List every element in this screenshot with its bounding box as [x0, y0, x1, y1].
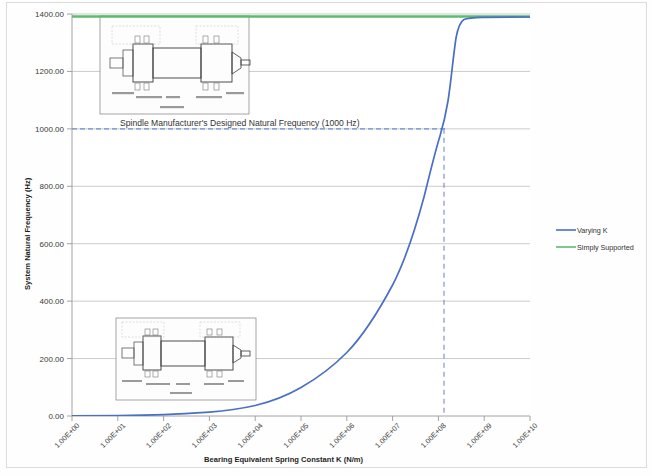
spindle-diagram-bottom [116, 318, 256, 400]
chart-svg: 1400.00 1200.00 1000.00 800.00 600.00 40… [0, 0, 653, 476]
y-tick-label: 1200.00 [35, 67, 64, 76]
legend-item-varying-k[interactable]: Varying K [556, 226, 608, 235]
x-tick-label: 1.00E+06 [327, 421, 356, 450]
legend-label-varying-k: Varying K [577, 226, 608, 235]
x-tick-label: 1.00E+03 [190, 421, 219, 450]
x-axis-title: Bearing Equivalent Spring Constant K (N/… [204, 455, 364, 464]
x-tick-label: 1.00E+08 [419, 421, 448, 450]
x-tick-label: 1.00E+04 [236, 421, 265, 450]
y-tick-label: 400.00 [40, 297, 65, 306]
y-tick-label: 200.00 [40, 355, 65, 364]
x-tick-label: 1.00E+02 [144, 421, 173, 450]
y-tick-label: 0.00 [48, 412, 64, 421]
legend-item-simply-supported[interactable]: Simply Supported [556, 243, 634, 252]
x-tick-label: 1.00E+10 [511, 421, 540, 450]
y-tick-label: 1400.00 [35, 10, 64, 19]
x-tick-marks [72, 416, 530, 421]
x-tick-label: 1.00E+00 [53, 421, 82, 450]
chart-canvas: 1400.00 1200.00 1000.00 800.00 600.00 40… [0, 0, 653, 476]
y-axis-title: System Natural Frequency (Hz) [23, 177, 32, 290]
legend-label-simply-supported: Simply Supported [577, 243, 634, 252]
y-tick-labels: 1400.00 1200.00 1000.00 800.00 600.00 40… [35, 10, 64, 421]
x-tick-label: 1.00E+01 [98, 421, 127, 450]
y-tick-marks [67, 14, 72, 416]
y-tick-label: 600.00 [40, 240, 65, 249]
x-tick-labels: 1.00E+00 1.00E+01 1.00E+02 1.00E+03 1.00… [53, 421, 540, 450]
y-tick-label: 800.00 [40, 182, 65, 191]
spindle-diagram-top [100, 16, 250, 114]
chart-page: 1400.00 1200.00 1000.00 800.00 600.00 40… [0, 0, 653, 476]
designed-frequency-label: Spindle Manufacturer's Designed Natural … [120, 118, 360, 128]
y-tick-label: 1000.00 [35, 125, 64, 134]
chart-legend: Varying K Simply Supported [556, 226, 634, 252]
x-tick-label: 1.00E+07 [373, 421, 402, 450]
x-tick-label: 1.00E+09 [465, 421, 494, 450]
x-tick-label: 1.00E+05 [282, 421, 311, 450]
